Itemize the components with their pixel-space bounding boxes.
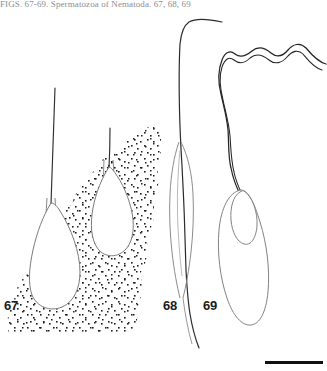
figure-label-68: 68 <box>163 298 177 313</box>
figure-69-flagellum-outer <box>219 44 326 192</box>
figure-67-stipple-background <box>0 120 170 335</box>
figure-67-right-flagellum <box>109 128 110 168</box>
figure-69-group <box>218 44 326 325</box>
scale-bar <box>265 361 323 364</box>
figure-plate: FIGS. 67-69. Spermatozoa of Nematoda. 67… <box>0 0 327 371</box>
figure-label-69: 69 <box>203 298 217 313</box>
figure-drawing-canvas <box>0 0 327 371</box>
figure-68-head-axial-line <box>177 150 182 276</box>
figure-67-group <box>0 88 170 335</box>
figure-67-left-flagellum <box>51 88 55 204</box>
figure-69-flagellum-inner <box>220 51 322 194</box>
figure-68-head-right-contour <box>181 142 193 298</box>
figure-68-tail-tip <box>183 298 192 344</box>
figure-label-67: 67 <box>4 298 18 313</box>
